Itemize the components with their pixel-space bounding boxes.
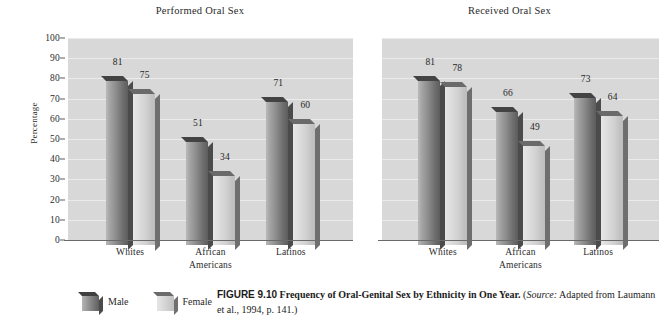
bar-face: [186, 142, 208, 245]
y-tick-mark: [60, 219, 65, 220]
bar-top-face: [288, 119, 315, 124]
bar-african-americans-female: [523, 146, 545, 245]
figure-title: Frequency of Oral-Genital Sex by Ethnici…: [280, 289, 521, 300]
y-tick-label-60: 60: [26, 114, 60, 124]
swatch-side: [174, 296, 178, 315]
bar-value-label: 34: [220, 152, 230, 162]
x-category-label-whites: Whites: [403, 246, 483, 259]
figure-caption: FIGURE 9.10 Frequency of Oral-Genital Se…: [217, 288, 657, 317]
legend-item-female: Female: [157, 292, 212, 311]
bar-side-shadow: [545, 146, 550, 250]
bar-value-label: 78: [452, 63, 462, 73]
bar-face: [523, 146, 545, 245]
y-tick-mark: [60, 38, 65, 39]
x-category-line1: Latinos: [251, 246, 331, 259]
y-axis-tick-labels: 0102030405060708090100: [22, 0, 60, 282]
bar-value-label: 49: [530, 122, 540, 132]
bar-top-face: [518, 141, 545, 146]
bar-face: [266, 102, 288, 245]
bar-top-face: [413, 76, 440, 81]
x-category-line1: Whites: [90, 246, 170, 259]
x-category-label-latinos: Latinos: [251, 246, 331, 259]
legend-item-male: Male: [82, 292, 129, 311]
y-tick-mark: [60, 98, 65, 99]
swatch-face: [157, 296, 174, 311]
bar-face: [574, 98, 596, 245]
bar-face: [418, 81, 440, 245]
bar-value-label: 71: [273, 78, 283, 88]
x-category-label-african: AfricanAmericans: [171, 246, 251, 271]
bar-top-face: [569, 93, 596, 98]
bar-value-label: 66: [503, 88, 513, 98]
bar-face: [293, 124, 315, 245]
bar-top-face: [440, 82, 467, 87]
bars-performed: 817551347160: [68, 38, 353, 240]
swatch-top: [153, 292, 174, 296]
plot-area-performed: 817551347160: [68, 38, 353, 240]
legend-label: Male: [108, 296, 129, 307]
swatch-side: [99, 296, 103, 315]
source-label: Source:: [526, 289, 557, 300]
x-category-line1: African: [481, 246, 561, 259]
x-category-label-african: AfricanAmericans: [481, 246, 561, 271]
bar-latinos-male: [266, 102, 288, 245]
x-category-line1: African: [171, 246, 251, 259]
y-tick-label-0: 0: [26, 235, 60, 245]
bar-whites-female: [133, 94, 155, 246]
bar-african-americans-female: [213, 176, 235, 245]
y-tick-mark: [60, 139, 65, 140]
bar-value-label: 51: [193, 118, 203, 128]
bar-top-face: [261, 97, 288, 102]
y-tick-label-100: 100: [26, 33, 60, 43]
female-swatch-icon: [157, 296, 174, 311]
bar-top-face: [128, 89, 155, 94]
bar-whites-male: [106, 81, 128, 245]
y-tick-label-70: 70: [26, 94, 60, 104]
bar-top-face: [596, 111, 623, 116]
bar-latinos-female: [601, 116, 623, 245]
y-tick-mark: [60, 58, 65, 59]
bar-value-label: 81: [425, 57, 435, 67]
legend-label: Female: [183, 296, 212, 307]
y-tick-mark: [60, 179, 65, 180]
bar-side-shadow: [315, 124, 320, 250]
figure-number: FIGURE 9.10: [217, 289, 277, 300]
y-tick-label-90: 90: [26, 53, 60, 63]
y-tick-mark: [60, 159, 65, 160]
x-category-label-latinos: Latinos: [558, 246, 638, 259]
y-tick-mark: [60, 118, 65, 119]
bar-face: [213, 176, 235, 245]
bar-side-shadow: [623, 116, 628, 250]
y-tick-label-50: 50: [26, 134, 60, 144]
bar-side-shadow: [467, 87, 472, 250]
bar-value-label: 81: [113, 57, 123, 67]
x-category-line2: Americans: [481, 259, 561, 272]
bar-value-label: 73: [581, 74, 591, 84]
y-tick-mark: [60, 199, 65, 200]
bar-face: [496, 112, 518, 245]
bar-top-face: [101, 76, 128, 81]
bar-side-shadow: [155, 94, 160, 251]
plot-area-received: 817866497364: [382, 38, 659, 240]
chart-legend: MaleFemale: [82, 292, 234, 311]
y-tick-label-10: 10: [26, 215, 60, 225]
chart-title-received: Received Oral Sex: [358, 5, 669, 16]
y-tick-label-20: 20: [26, 195, 60, 205]
bar-whites-female: [445, 87, 467, 245]
swatch-face: [82, 296, 99, 311]
bar-side-shadow: [235, 176, 240, 250]
bar-latinos-male: [574, 98, 596, 245]
x-axis-line: [378, 240, 659, 241]
x-axis-line: [64, 240, 353, 241]
chart-panel-performed: Performed Oral Sex Percentage 0102030405…: [0, 0, 358, 282]
bar-top-face: [181, 137, 208, 142]
bar-african-americans-male: [496, 112, 518, 245]
bar-value-label: 64: [608, 92, 618, 102]
bar-whites-male: [418, 81, 440, 245]
bar-value-label: 75: [140, 70, 150, 80]
y-tick-label-80: 80: [26, 73, 60, 83]
x-category-line1: Whites: [403, 246, 483, 259]
y-tick-mark: [60, 78, 65, 79]
y-tick-label-30: 30: [26, 174, 60, 184]
bar-top-face: [491, 107, 518, 112]
